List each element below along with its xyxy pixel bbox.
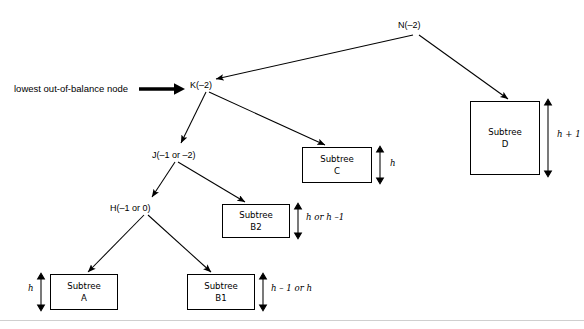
edge-h-to-subtree-b1 <box>148 215 211 272</box>
edge-h-to-subtree-a <box>88 215 144 272</box>
subtree-box-b1: Subtree B1 <box>187 274 255 310</box>
subtree-box-d-line1: Subtree <box>488 126 522 138</box>
height-bracket-subtree-a <box>38 273 45 311</box>
node-label-n: N(–2) <box>398 20 421 30</box>
height-label-subtree-b1: h – 1 or h <box>271 283 312 293</box>
subtree-box-a: Subtree A <box>50 274 118 310</box>
node-label-h: H(–1 or 0) <box>110 203 151 213</box>
height-label-subtree-a: h <box>28 283 34 293</box>
subtree-box-b2-line2: B2 <box>250 221 261 233</box>
subtree-box-c-line2: C <box>334 165 340 177</box>
subtree-box-b1-line2: B1 <box>215 292 226 304</box>
footer-rule <box>0 320 584 321</box>
subtree-box-c-line1: Subtree <box>320 153 354 165</box>
subtree-box-b2-line1: Subtree <box>239 209 273 221</box>
subtree-box-d-line2: D <box>502 138 509 150</box>
height-label-subtree-d: h + 1 <box>557 129 581 139</box>
height-label-subtree-c: h <box>390 158 396 168</box>
subtree-box-b1-line1: Subtree <box>204 280 238 292</box>
height-bracket-subtree-d <box>545 99 552 177</box>
subtree-box-d: Subtree D <box>470 101 540 175</box>
height-bracket-subtree-b2 <box>295 203 302 239</box>
caption-lowest-out-of-balance-node: lowest out-of-balance node <box>14 83 128 94</box>
height-bracket-subtree-b1 <box>260 273 267 311</box>
edge-k-to-j <box>181 92 206 143</box>
edge-j-to-h <box>152 162 175 197</box>
edge-k-to-subtree-c <box>209 92 325 145</box>
subtree-box-b2: Subtree B2 <box>222 204 290 238</box>
subtree-box-a-line1: Subtree <box>67 280 101 292</box>
subtree-box-c: Subtree C <box>302 147 372 183</box>
edge-j-to-subtree-b2 <box>178 162 245 202</box>
edge-n-to-k <box>216 35 413 79</box>
caption-arrow-icon <box>139 83 185 95</box>
subtree-box-a-line2: A <box>81 292 87 304</box>
figure-avl-rotation-diagram: lowest out-of-balance node N(–2) K(–2) J… <box>0 0 584 329</box>
node-label-k: K(–2) <box>190 80 212 90</box>
height-label-subtree-b2: h or h –1 <box>306 212 344 222</box>
edge-n-to-subtree-d <box>419 35 508 99</box>
height-bracket-subtree-c <box>377 146 384 184</box>
node-label-j: J(–1 or –2) <box>152 150 196 160</box>
